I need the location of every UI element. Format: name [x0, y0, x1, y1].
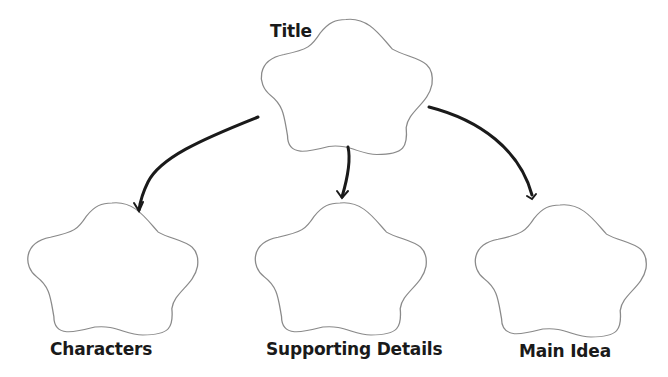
arrow-to-characters: [134, 117, 258, 211]
main-idea-label: Main Idea: [519, 341, 611, 361]
supporting-details-label: Supporting Details: [266, 339, 442, 359]
arrow-to-main-idea: [429, 107, 536, 199]
title-label: Title: [270, 21, 312, 41]
arrow-to-supporting-details: [337, 147, 349, 198]
supporting-details-cloud: [255, 203, 426, 335]
characters-label: Characters: [50, 339, 152, 359]
characters-cloud: [28, 203, 198, 335]
main-idea-cloud: [475, 205, 646, 337]
diagram-canvas: [0, 0, 668, 377]
